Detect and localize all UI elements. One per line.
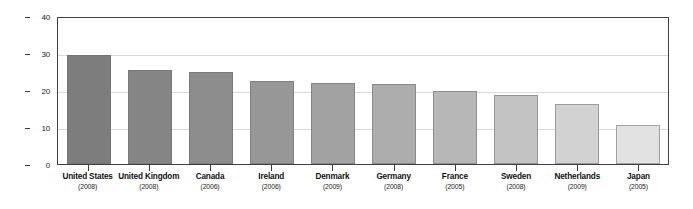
bar [67, 55, 111, 164]
bar-chart-figure: Percent of Single Parent Households 0102… [0, 0, 693, 209]
bar [555, 104, 599, 164]
x-axis-tick-mark [638, 165, 639, 171]
x-axis-label-country: Sweden [485, 172, 546, 181]
bar-slot [363, 18, 424, 164]
bar-slot [302, 18, 363, 164]
x-axis-label-sweden: Sweden(2008) [485, 172, 546, 202]
y-axis-tick-mark [25, 17, 30, 18]
x-axis-tick-mark [455, 165, 456, 171]
x-axis-label-country: Germany [363, 172, 424, 181]
y-axis-tick-mark [25, 91, 30, 92]
x-axis-label-canada: Canada(2006) [179, 172, 240, 202]
plot-area [57, 17, 669, 165]
bar [494, 95, 538, 164]
y-axis-tick-mark [25, 128, 30, 129]
x-axis-label-country: Canada [179, 172, 240, 181]
y-axis-tick-label: 20 [30, 87, 50, 96]
x-axis-label-country: Ireland [241, 172, 302, 181]
x-axis-label-year: (2009) [547, 183, 608, 191]
x-axis-label-year: (2008) [485, 183, 546, 191]
x-axis-tick-mark [210, 165, 211, 171]
x-axis-label-year: (2008) [363, 183, 424, 191]
bar-slot [180, 18, 241, 164]
x-axis-label-japan: Japan(2005) [608, 172, 669, 202]
x-axis-label-country: Denmark [302, 172, 363, 181]
bar [311, 83, 355, 164]
x-axis-tick-marks [57, 165, 669, 171]
x-axis-label-year: (2006) [241, 183, 302, 191]
bar [372, 84, 416, 164]
bar-slot [424, 18, 485, 164]
bar [433, 91, 477, 164]
bar-slot [485, 18, 546, 164]
x-axis-label-country: United Kingdom [118, 172, 179, 181]
x-axis-tick-mark [394, 165, 395, 171]
bar-slot [119, 18, 180, 164]
x-axis-label-year: (2006) [179, 183, 240, 191]
x-axis-label-year: (2005) [608, 183, 669, 191]
bar [616, 125, 660, 164]
y-axis-tick-label: 0 [30, 161, 50, 170]
x-axis-tick-slot [608, 165, 669, 171]
x-axis-label-netherlands: Netherlands(2009) [547, 172, 608, 202]
x-axis-tick-mark [271, 165, 272, 171]
x-axis-tick-slot [302, 165, 363, 171]
x-axis-label-country: Netherlands [547, 172, 608, 181]
x-axis-label-ireland: Ireland(2006) [241, 172, 302, 202]
bar-series [58, 18, 668, 164]
x-axis-tick-slot [363, 165, 424, 171]
x-axis-tick-slot [57, 165, 118, 171]
y-axis-tick-label: 40 [30, 13, 50, 22]
x-axis-tick-slot [424, 165, 485, 171]
x-axis-label-country: Japan [608, 172, 669, 181]
x-axis-tick-mark [577, 165, 578, 171]
x-axis-tick-mark [516, 165, 517, 171]
bar [250, 81, 294, 164]
x-axis-tick-mark [332, 165, 333, 171]
x-axis-tick-slot [241, 165, 302, 171]
x-axis-label-united-states: United States(2008) [57, 172, 118, 202]
bar [189, 72, 233, 164]
x-axis-tick-mark [149, 165, 150, 171]
bar-slot [607, 18, 668, 164]
x-axis-label-france: France(2005) [424, 172, 485, 202]
x-axis-label-denmark: Denmark(2009) [302, 172, 363, 202]
x-axis-tick-mark [88, 165, 89, 171]
x-axis-label-united-kingdom: United Kingdom(2008) [118, 172, 179, 202]
bar-slot [58, 18, 119, 164]
y-axis-tick-mark [25, 54, 30, 55]
x-axis-label-year: (2008) [57, 183, 118, 191]
x-axis-tick-slot [485, 165, 546, 171]
y-axis-tick-mark [25, 165, 30, 166]
x-axis-label-country: France [424, 172, 485, 181]
x-axis-tick-labels: United States(2008)United Kingdom(2008)C… [57, 172, 669, 202]
x-axis-tick-slot [179, 165, 240, 171]
x-axis-tick-slot [118, 165, 179, 171]
x-axis-label-year: (2009) [302, 183, 363, 191]
y-axis-tick-label: 30 [30, 50, 50, 59]
x-axis-label-year: (2005) [424, 183, 485, 191]
bar-slot [546, 18, 607, 164]
x-axis-label-country: United States [57, 172, 118, 181]
y-axis-tick-labels: 010203040 [30, 17, 50, 165]
y-axis-tick-label: 10 [30, 124, 50, 133]
x-axis-tick-slot [547, 165, 608, 171]
bar [128, 70, 172, 164]
x-axis-label-year: (2008) [118, 183, 179, 191]
x-axis-label-germany: Germany(2008) [363, 172, 424, 202]
plot-inner [58, 18, 668, 164]
bar-slot [241, 18, 302, 164]
